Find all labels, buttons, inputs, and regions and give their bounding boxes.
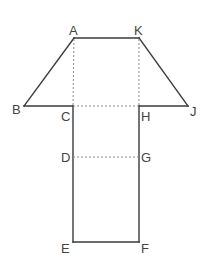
segment-KJ [139,38,188,106]
label-E: E [61,241,70,256]
label-H: H [141,109,150,124]
geometry-diagram: A K B J C H D G E F [0,0,204,269]
segment-AC-dashed [73,39,74,106]
dashed-lines [73,39,139,157]
label-K: K [134,23,143,38]
label-D: D [61,150,70,165]
label-B: B [12,102,21,117]
solid-outline [24,38,188,242]
label-G: G [141,150,151,165]
label-F: F [141,241,149,256]
label-A: A [69,23,78,38]
segment-AB [24,38,74,106]
point-labels: A K B J C H D G E F [12,23,197,256]
label-C: C [61,109,70,124]
label-J: J [190,104,197,119]
